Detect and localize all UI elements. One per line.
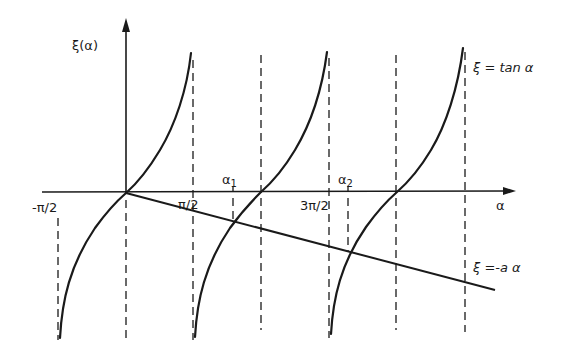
tick-label-neg-pi-half: -π/2: [32, 200, 57, 215]
root-label-alpha2: α2: [338, 172, 353, 189]
tick-label-three-pi-half: 3π/2: [300, 198, 329, 213]
axes: [42, 18, 516, 195]
y-axis-arrow-icon: [122, 18, 130, 32]
root-label-alpha1: α1: [222, 172, 237, 189]
tick-label-pi-half: π/2: [178, 197, 198, 212]
x-axis-arrow-icon: [503, 187, 516, 195]
y-axis-label: ξ(α): [72, 38, 98, 53]
tan-curve-label: ξ = tan α: [472, 60, 534, 75]
line-label: ξ =-a α: [472, 260, 521, 275]
diagram: ξ(α) α -π/2 π/2 3π/2 α1 α2 ξ = tan α ξ =…: [0, 0, 573, 356]
asymptote-lines: [58, 52, 465, 340]
x-axis-label: α: [496, 198, 505, 213]
x-axis: [42, 191, 508, 192]
